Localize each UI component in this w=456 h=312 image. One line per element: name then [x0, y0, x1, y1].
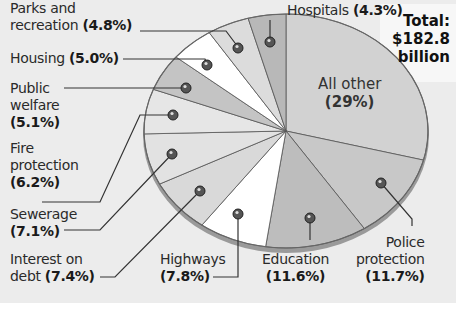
label-highways: Highways (7.8%) — [160, 251, 225, 285]
marker-dot-icon — [233, 209, 243, 219]
label-parks: Parks and recreation (4.8%) — [10, 0, 132, 34]
label-sewerage: Sewerage (7.1%) — [10, 206, 77, 240]
label-fire: Fire protection (6.2%) — [10, 140, 79, 191]
marker-dot-icon — [195, 186, 205, 196]
marker-dot-icon — [167, 149, 177, 159]
total-label: Total: $182.8 billion — [392, 12, 450, 66]
label-interest: Interest on debt (7.4%) — [10, 251, 95, 285]
label-housing: Housing (5.0%) — [10, 50, 119, 67]
marker-dot-icon — [181, 83, 191, 93]
pie-slices — [143, 14, 429, 253]
marker-dot-icon — [202, 60, 212, 70]
marker-dot-icon — [305, 213, 315, 223]
label-welfare: Public welfare (5.1%) — [10, 80, 60, 131]
marker-dot-icon — [233, 43, 243, 53]
label-education: Education (11.6%) — [262, 251, 329, 285]
marker-dot-icon — [376, 178, 386, 188]
label-all-other: All other (29%) — [318, 75, 381, 111]
label-hospitals: Hospitals (4.3%) — [287, 2, 403, 19]
marker-dot-icon — [265, 37, 275, 47]
label-police: Police protection (11.7%) — [356, 234, 425, 285]
marker-dot-icon — [168, 110, 178, 120]
